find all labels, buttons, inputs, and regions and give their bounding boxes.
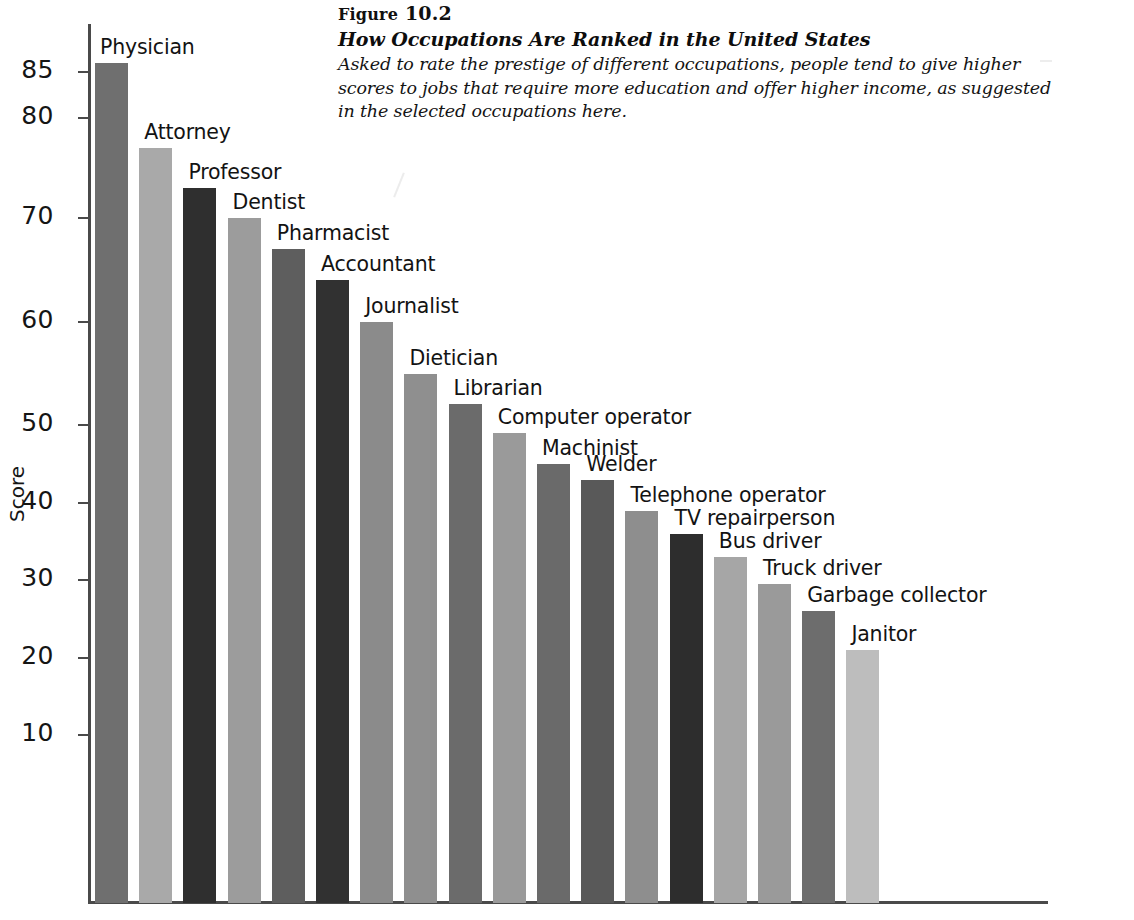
bar-label: Librarian (454, 378, 543, 398)
y-tick-label: 60 (0, 305, 54, 334)
y-tick-mark (78, 502, 89, 504)
bar-label: Computer operator (498, 407, 691, 427)
bar (802, 611, 835, 903)
bar (360, 322, 393, 903)
bar (139, 148, 172, 903)
y-tick-mark (78, 117, 89, 119)
y-tick-label: 70 (0, 201, 54, 230)
y-tick-mark (78, 579, 89, 581)
bar (537, 464, 570, 903)
figure-root: Figure 10.2 How Occupations Are Ranked i… (0, 0, 1134, 920)
y-tick-label: 50 (0, 408, 54, 437)
bar-label: Garbage collector (807, 585, 986, 605)
bar (272, 249, 305, 903)
bar (95, 63, 128, 903)
bar-label: Bus driver (719, 531, 822, 551)
bar-label: Physician (100, 37, 195, 57)
bar (493, 433, 526, 903)
bar-chart: Score 858070605040302010 PhysicianAttorn… (0, 0, 1134, 920)
y-tick-mark (78, 321, 89, 323)
y-axis-line (88, 24, 91, 904)
bar (581, 480, 614, 903)
y-tick-mark (78, 657, 89, 659)
bar (316, 280, 349, 903)
scan-artifact-2 (1040, 60, 1052, 62)
bar-label: Telephone operator (630, 485, 825, 505)
y-tick-label: 30 (0, 563, 54, 592)
bar-label: Pharmacist (277, 223, 389, 243)
bar-label: Accountant (321, 254, 435, 274)
y-tick-mark (78, 424, 89, 426)
bar (449, 404, 482, 903)
bar (714, 557, 747, 903)
y-tick-label: 40 (0, 486, 54, 515)
scan-artifact-1 (393, 173, 405, 198)
bar-label: Professor (188, 162, 281, 182)
bar-label: TV repairperson (675, 508, 836, 528)
bar (228, 218, 261, 903)
bar (625, 511, 658, 903)
bar-label: Dentist (233, 192, 305, 212)
bar (670, 534, 703, 903)
y-tick-mark (78, 734, 89, 736)
bar (758, 584, 791, 903)
bar-label: Welder (586, 454, 656, 474)
bar-label: Journalist (365, 296, 458, 316)
bar-label: Attorney (144, 122, 231, 142)
bar-label: Janitor (851, 624, 916, 644)
bar-label: Truck driver (763, 558, 882, 578)
y-tick-label: 10 (0, 718, 54, 747)
bar (846, 650, 879, 903)
bar (404, 374, 437, 904)
bar-label: Dietician (409, 348, 498, 368)
y-tick-mark (78, 71, 89, 73)
y-tick-mark (78, 217, 89, 219)
y-tick-label: 80 (0, 101, 54, 130)
bar (183, 188, 216, 903)
y-tick-label: 20 (0, 641, 54, 670)
y-tick-label: 85 (0, 55, 54, 84)
